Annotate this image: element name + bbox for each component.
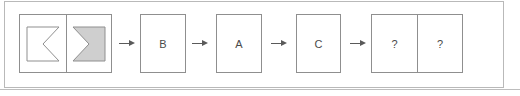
arrow-1-right-icon (119, 39, 137, 49)
unknown-1-label: ? (391, 38, 397, 50)
step-2-label: B (159, 38, 167, 50)
step-4-label: C (314, 38, 322, 50)
sequence-row: B A C ? ? (0, 0, 520, 96)
arrow-head (202, 40, 208, 46)
bottom-divider-rule (0, 89, 520, 90)
arrow-4-right-icon (350, 39, 368, 49)
arrow-2-right-icon (192, 39, 210, 49)
cell-right-chevron (66, 15, 112, 72)
cell-unknown-2: ? (417, 15, 462, 72)
step-4-card-C: C (296, 14, 341, 73)
step-3-card-A: A (216, 14, 262, 73)
arrow-head (360, 40, 366, 46)
unknown-2-label: ? (437, 38, 443, 50)
arrow-3-right-icon (271, 39, 289, 49)
chevron-left-outline-icon (26, 26, 60, 62)
step-3-label: A (235, 38, 243, 50)
step-5-compound-box: ? ? (371, 14, 463, 73)
step-2-card-B: B (140, 14, 186, 73)
cell-left-chevron (20, 15, 66, 72)
arrow-head (281, 40, 287, 46)
figure-canvas: B A C ? ? (0, 0, 520, 96)
arrow-head (129, 40, 135, 46)
step-1-compound-box (19, 14, 112, 73)
cell-unknown-1: ? (372, 15, 417, 72)
chevron-right-filled-icon (72, 26, 106, 62)
